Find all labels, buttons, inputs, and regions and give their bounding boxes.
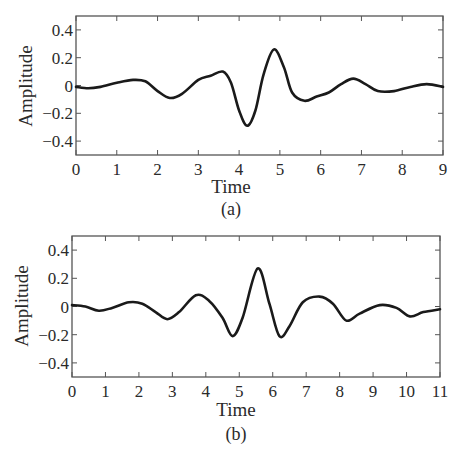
x-tick-label: 6 (268, 382, 277, 401)
chart-panel-b: 0.40.20−0.2−0.4 01234567891011 Amplitude… (11, 236, 448, 445)
x-tick-label: 9 (439, 160, 448, 179)
x-tick-label: 8 (398, 160, 407, 179)
caption-b: (b) (226, 424, 247, 445)
y-tick-label: 0 (65, 77, 74, 96)
y-tick-label: −0.4 (38, 354, 69, 373)
y-tick-label: 0.4 (52, 21, 74, 40)
y-axis-label-b: Amplitude (11, 265, 32, 346)
x-tick-label: 8 (335, 382, 344, 401)
caption-a: (a) (221, 199, 241, 220)
x-tick-label: 7 (302, 382, 311, 401)
x-tick-label: 4 (202, 382, 211, 401)
plot-frame-a (76, 16, 443, 155)
x-tick-label: 5 (276, 160, 285, 179)
x-axis-label-a: Time (211, 176, 250, 197)
x-tick-label: 2 (153, 160, 162, 179)
x-tick-label: 11 (432, 382, 448, 401)
x-tick-label: 1 (101, 382, 110, 401)
y-tick-label: 0 (61, 298, 70, 317)
y-ticks-b: 0.40.20−0.2−0.4 (38, 241, 440, 373)
signal-line-a (76, 49, 443, 125)
x-tick-label: 2 (135, 382, 144, 401)
x-tick-label: 9 (369, 382, 378, 401)
y-tick-label: 0.2 (52, 49, 73, 68)
x-tick-label: 6 (316, 160, 325, 179)
y-tick-label: −0.4 (42, 132, 73, 151)
y-tick-label: −0.2 (42, 104, 73, 123)
y-tick-label: 0.4 (48, 241, 70, 260)
figure: 0.40.20−0.2−0.4 0123456789 Amplitude Tim… (0, 0, 457, 457)
plot-frame-b (72, 236, 440, 377)
x-tick-label: 10 (398, 382, 415, 401)
x-tick-label: 0 (68, 382, 77, 401)
x-tick-label: 7 (357, 160, 366, 179)
y-axis-label-a: Amplitude (15, 45, 36, 126)
y-tick-label: −0.2 (38, 326, 69, 345)
y-tick-label: 0.2 (48, 269, 69, 288)
x-axis-label-b: Time (216, 399, 255, 420)
chart-panel-a: 0.40.20−0.2−0.4 0123456789 Amplitude Tim… (15, 16, 447, 220)
x-ticks-b: 01234567891011 (68, 236, 448, 401)
x-tick-label: 3 (194, 160, 203, 179)
signal-line-b (72, 268, 440, 337)
x-tick-label: 3 (168, 382, 177, 401)
x-tick-label: 0 (72, 160, 81, 179)
x-tick-label: 1 (113, 160, 122, 179)
